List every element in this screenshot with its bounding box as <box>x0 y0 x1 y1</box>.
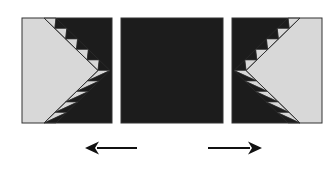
solid-tile-fill <box>121 18 223 123</box>
diagram-canvas <box>0 0 333 171</box>
left-arrow-icon <box>85 142 137 155</box>
middle-solid-tile <box>121 18 223 123</box>
arrow-head <box>85 142 99 155</box>
left-chevron-tile <box>22 18 112 123</box>
right-chevron-tile <box>232 18 322 123</box>
right-arrow-icon <box>208 142 262 155</box>
arrow-head <box>248 142 262 155</box>
